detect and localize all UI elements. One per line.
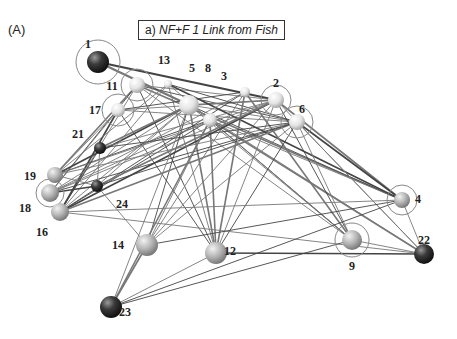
node-label-14: 14 [112, 238, 124, 252]
node-4 [394, 192, 410, 208]
node-label-17: 17 [89, 103, 101, 117]
edge-14-4 [147, 200, 402, 245]
network-diagram: 12345689111213141617181921222324 [0, 0, 457, 339]
node-18 [41, 184, 59, 202]
node-9 [342, 230, 362, 250]
node-label-11: 11 [106, 79, 117, 93]
edge-5-18 [50, 105, 189, 193]
node-label-12: 12 [224, 244, 236, 258]
node-21 [94, 142, 106, 154]
node-label-9: 9 [349, 259, 355, 273]
node-19 [47, 167, 63, 183]
node-6 [289, 114, 305, 130]
node-22 [414, 244, 434, 264]
edge-6-9 [297, 122, 352, 240]
node-label-3: 3 [221, 69, 227, 83]
edge-16-4 [60, 200, 402, 212]
edge-13-16 [60, 84, 168, 212]
node-24 [91, 180, 103, 192]
node-5 [179, 95, 199, 115]
edge-24-14 [97, 186, 147, 245]
edge-23-8 [111, 120, 210, 307]
node-label-21: 21 [72, 127, 84, 141]
node-label-18: 18 [19, 201, 31, 215]
node-label-22: 22 [418, 233, 430, 247]
node-3 [240, 87, 250, 97]
node-label-23: 23 [119, 305, 131, 319]
node-label-2: 2 [273, 76, 279, 90]
node-2 [268, 92, 284, 108]
node-label-5: 5 [189, 61, 195, 75]
node-16 [51, 203, 69, 221]
node-13 [164, 80, 172, 88]
node-1 [87, 51, 109, 73]
node-label-4: 4 [415, 192, 421, 206]
node-label-1: 1 [85, 37, 91, 51]
node-label-8: 8 [205, 61, 211, 75]
node-label-24: 24 [116, 197, 128, 211]
node-label-19: 19 [24, 169, 36, 183]
node-11 [129, 77, 145, 93]
edge-6-22 [297, 122, 424, 254]
node-label-13: 13 [158, 53, 170, 67]
node-label-16: 16 [36, 225, 48, 239]
node-label-6: 6 [299, 102, 305, 116]
node-17 [111, 103, 125, 117]
node-8 [203, 113, 217, 127]
node-14 [136, 234, 158, 256]
edge-12-22 [216, 253, 424, 254]
